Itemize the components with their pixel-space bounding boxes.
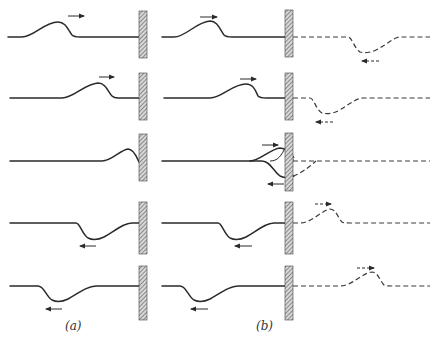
virtual-pulse bbox=[293, 272, 430, 286]
wall bbox=[139, 73, 147, 120]
wall bbox=[139, 11, 147, 58]
wave-reflection-diagram bbox=[0, 0, 435, 347]
virtual-pulse bbox=[293, 37, 430, 53]
panel-b-row-1 bbox=[162, 10, 430, 61]
panel-a-row-5 bbox=[10, 266, 147, 320]
wall bbox=[285, 73, 293, 120]
wall bbox=[285, 10, 293, 57]
wall bbox=[139, 134, 147, 181]
wall bbox=[139, 266, 147, 320]
panel-a-row-4 bbox=[10, 202, 147, 254]
panel-a-row-3 bbox=[10, 134, 147, 181]
reflected-pulse bbox=[10, 286, 139, 301]
incident-pulse bbox=[162, 21, 285, 37]
incident-pulse bbox=[162, 148, 293, 161]
incident-pulse bbox=[10, 83, 139, 98]
incident-pulse bbox=[164, 84, 285, 98]
panel-a-row-1 bbox=[8, 11, 147, 58]
panel-a-row-2 bbox=[10, 73, 147, 120]
incident-pulse bbox=[8, 22, 139, 37]
reflected-pulse bbox=[162, 223, 285, 239]
panel-b-label: (b) bbox=[256, 319, 273, 333]
wall bbox=[285, 133, 293, 191]
panel-b-row-3 bbox=[162, 133, 430, 191]
panel-b-row-2 bbox=[164, 73, 430, 122]
panel-a bbox=[8, 11, 147, 320]
wall bbox=[285, 202, 293, 254]
panel-b-row-4 bbox=[162, 202, 430, 254]
reflected-pulse bbox=[10, 223, 139, 239]
panel-b bbox=[162, 10, 430, 320]
virtual-pulse bbox=[293, 209, 430, 223]
panel-a-label: (a) bbox=[65, 319, 82, 333]
wall bbox=[139, 202, 147, 254]
wall bbox=[285, 266, 293, 320]
virtual-pulse bbox=[293, 98, 430, 114]
virtual-pulse bbox=[293, 161, 316, 176]
panel-b-row-5 bbox=[162, 266, 430, 320]
reflected-pulse bbox=[162, 286, 285, 301]
pulse-at-wall bbox=[10, 149, 139, 162]
